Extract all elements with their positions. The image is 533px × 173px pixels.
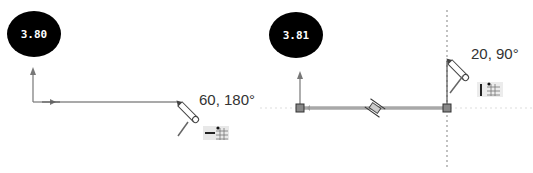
cursor-readout: 60, 180° <box>199 91 255 108</box>
dimension-badge: 3.80 <box>7 11 61 57</box>
sketch-panel-right[interactable]: 3.81 20, 90° <box>260 0 533 173</box>
cursor-tail <box>178 122 188 136</box>
pencil-cursor-icon <box>174 98 199 123</box>
pencil-cursor-icon <box>444 56 469 81</box>
origin-axis-icon <box>297 71 303 104</box>
cursor-tail <box>450 76 463 93</box>
origin-axes-icon <box>30 67 60 105</box>
dimension-badge: 3.81 <box>269 12 323 58</box>
endpoint-handle-start[interactable] <box>296 104 304 112</box>
vertical-relation-icon <box>477 82 503 97</box>
horizontal-relation-icon <box>203 126 229 140</box>
cursor-readout: 20, 90° <box>471 45 519 62</box>
endpoint-handle-end[interactable] <box>443 104 451 112</box>
sketch-panel-left[interactable]: 3.80 60, 180° <box>0 0 260 173</box>
